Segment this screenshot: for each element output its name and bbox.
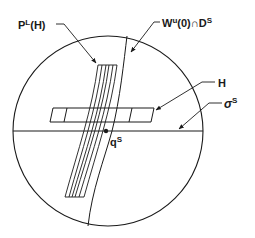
label-h: H: [218, 77, 226, 89]
pl-h-leader: [56, 24, 96, 63]
wu-leader: [131, 22, 160, 52]
label-sigma-s: σS: [224, 96, 238, 111]
label-qs: qS: [110, 135, 123, 148]
sigma-s-leader: [179, 103, 222, 129]
label-wu: Wu(0)∩DS: [162, 16, 213, 29]
qs-point: [104, 129, 108, 133]
diagram-canvas: PL(H) Wu(0)∩DS H σS qS: [0, 0, 255, 238]
label-pl-h: PL(H): [18, 18, 46, 31]
